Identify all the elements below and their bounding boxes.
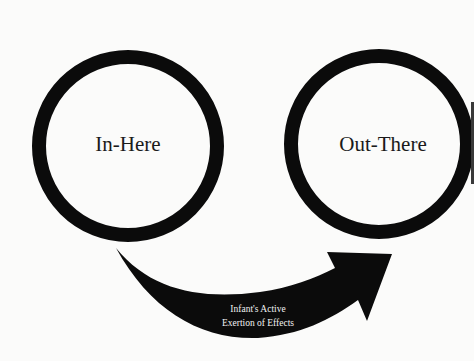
arrow-label: Infant's Active Exertion of Effects xyxy=(222,302,294,330)
out-there-label: Out-There xyxy=(339,132,426,157)
arrow-label-line-2: Exertion of Effects xyxy=(222,316,294,330)
arrow-label-line-1: Infant's Active xyxy=(222,302,294,316)
in-here-label: In-Here xyxy=(95,132,160,157)
